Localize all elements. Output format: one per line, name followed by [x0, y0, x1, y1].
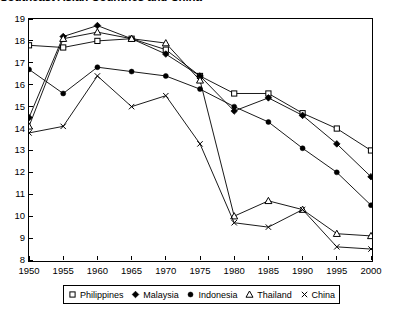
data-point-filled-circle — [232, 104, 237, 109]
data-point-filled-diamond — [132, 291, 139, 298]
legend-item-thailand[interactable]: Thailand — [245, 290, 292, 300]
series-thailand — [29, 29, 372, 239]
x-axis-tick-label: 1990 — [286, 265, 320, 276]
data-point-open-square — [29, 43, 32, 48]
data-point-open-triangle — [94, 29, 101, 35]
y-axis-tick-label: 9 — [3, 233, 25, 242]
legend-label: Philippines — [80, 290, 124, 300]
data-point-cross — [301, 292, 306, 297]
y-axis-tick-label: 10 — [3, 211, 25, 220]
y-axis-tick-label: 14 — [3, 124, 25, 133]
series-line — [29, 76, 371, 249]
x-axis-tick-label: 1975 — [183, 265, 217, 276]
data-point-open-square — [368, 148, 372, 153]
legend-item-indonesia[interactable]: Indonesia — [186, 290, 237, 300]
chart-title: Southeast Asian Countries and China — [0, 0, 403, 7]
y-axis-tick-label: 11 — [3, 189, 25, 198]
series-line — [29, 39, 371, 151]
legend-item-malaysia[interactable]: Malaysia — [131, 290, 179, 300]
series-philippines — [29, 36, 372, 153]
y-axis-tick-label: 8 — [3, 255, 25, 264]
data-point-open-triangle — [265, 197, 272, 203]
x-axis-tick-label: 1995 — [320, 265, 354, 276]
data-point-open-triangle — [333, 230, 340, 236]
data-point-filled-circle — [369, 203, 373, 208]
data-point-open-square — [70, 292, 75, 297]
data-point-open-triangle — [246, 291, 253, 297]
legend-item-china[interactable]: China — [300, 290, 336, 300]
series-china — [29, 73, 372, 251]
x-axis-tick-label: 1950 — [12, 265, 46, 276]
y-axis-tick-label: 19 — [3, 14, 25, 23]
plot-area — [28, 18, 373, 262]
legend-label: Malaysia — [143, 290, 179, 300]
x-axis-tick-label: 1985 — [251, 265, 285, 276]
x-axis-tick-label: 2000 — [354, 265, 388, 276]
data-point-open-square — [334, 126, 339, 131]
series-indonesia — [29, 65, 372, 208]
legend-label: Indonesia — [198, 290, 237, 300]
y-axis-labels: 8910111213141516171819 — [0, 18, 25, 262]
data-point-filled-circle — [334, 170, 339, 175]
data-point-filled-circle — [95, 65, 100, 70]
legend-label: China — [312, 290, 336, 300]
y-axis-tick-label: 17 — [3, 58, 25, 67]
legend-item-philippines[interactable]: Philippines — [68, 290, 124, 300]
data-point-cross — [163, 93, 168, 98]
data-point-filled-circle — [61, 91, 66, 96]
legend-label: Thailand — [257, 290, 292, 300]
x-axis-tick-label: 1965 — [115, 265, 149, 276]
y-axis-tick-label: 13 — [3, 145, 25, 154]
legend-marker-filled-circle-icon — [186, 290, 195, 299]
data-point-cross — [197, 141, 202, 146]
y-axis-tick-label: 12 — [3, 167, 25, 176]
data-point-open-square — [232, 91, 237, 96]
data-point-filled-circle — [163, 73, 168, 78]
series-line — [29, 32, 371, 236]
legend-marker-cross-icon — [300, 290, 309, 299]
legend-marker-filled-diamond-icon — [131, 290, 140, 299]
x-axis-labels: 1950195519601965197019751980198519901995… — [0, 265, 403, 279]
data-point-open-square — [61, 45, 66, 50]
data-point-open-triangle — [29, 123, 33, 129]
data-point-cross — [95, 73, 100, 78]
x-axis-tick-label: 1980 — [217, 265, 251, 276]
data-point-filled-circle — [129, 69, 134, 74]
data-point-filled-circle — [188, 292, 193, 297]
plot-svg — [29, 19, 372, 261]
legend-marker-open-square-icon — [68, 290, 77, 299]
x-axis-tick-label: 1955 — [46, 265, 80, 276]
y-axis-tick-label: 18 — [3, 36, 25, 45]
y-axis-tick-label: 15 — [3, 102, 25, 111]
y-axis-tick-label: 16 — [3, 80, 25, 89]
chart-legend: PhilippinesMalaysiaIndonesiaThailandChin… — [63, 285, 340, 304]
data-point-filled-circle — [300, 146, 305, 151]
data-point-filled-circle — [266, 119, 271, 124]
x-axis-tick-label: 1970 — [149, 265, 183, 276]
data-point-cross — [129, 104, 134, 109]
legend-marker-open-triangle-icon — [245, 290, 254, 299]
x-axis-tick-label: 1960 — [80, 265, 114, 276]
chart-figure: Southeast Asian Countries and China 8910… — [0, 0, 403, 309]
data-point-open-square — [95, 38, 100, 43]
